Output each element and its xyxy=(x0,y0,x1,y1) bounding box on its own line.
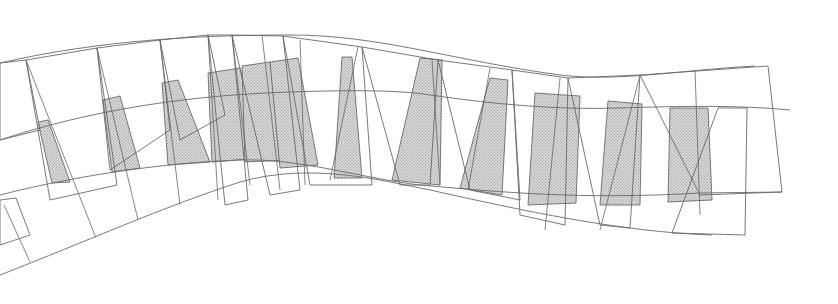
shaded-panel xyxy=(38,120,70,183)
rib-line xyxy=(26,60,96,238)
shaded-panel xyxy=(668,108,712,202)
shaded-panel xyxy=(528,93,580,205)
diagram-canvas xyxy=(0,0,838,304)
shaded-panel xyxy=(600,101,642,205)
frame-outline xyxy=(0,198,30,245)
shaded-panel xyxy=(334,57,362,178)
rib-line xyxy=(97,48,138,220)
band-curve xyxy=(0,35,755,77)
rib-line xyxy=(4,205,30,262)
frame-outline xyxy=(0,60,40,140)
shaded-panels xyxy=(38,57,712,205)
